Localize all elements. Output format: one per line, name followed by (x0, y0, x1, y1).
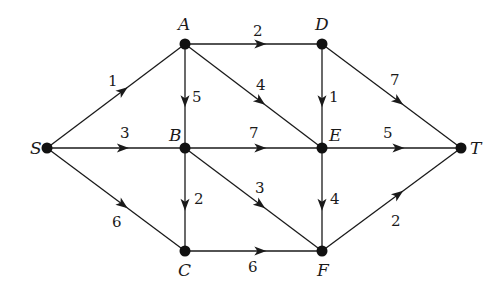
edge-weight-label: 2 (391, 212, 401, 230)
node-c (180, 246, 191, 257)
node-t (456, 143, 467, 154)
arrowhead-icon (391, 191, 403, 202)
arrowhead-icon (253, 94, 265, 105)
node-label-c: C (178, 260, 191, 280)
edge-weight-label: 1 (108, 72, 118, 90)
node-label-b: B (168, 125, 182, 145)
node-label-f: F (316, 260, 330, 280)
edge-weight-label: 7 (249, 124, 259, 142)
edge-s-c (47, 148, 185, 251)
node-f (317, 246, 328, 257)
node-label-e: E (328, 125, 342, 145)
node-e (317, 143, 328, 154)
edge-weight-label: 4 (256, 76, 266, 94)
node-label-d: D (314, 14, 329, 34)
node-label-a: A (176, 14, 190, 34)
edge-weight-label: 7 (390, 71, 400, 89)
node-d (317, 39, 328, 50)
node-a (180, 39, 191, 50)
arrowhead-icon (253, 197, 265, 208)
arrowhead-icon (115, 197, 127, 208)
edge-f-t (322, 148, 461, 251)
node-label-s: S (30, 138, 42, 158)
node-label-t: T (470, 138, 483, 158)
edge-weight-label: 6 (248, 258, 258, 276)
edge-weight-label: 5 (383, 124, 393, 142)
edge-weight-label: 3 (255, 179, 265, 197)
edge-weight-label: 5 (192, 88, 202, 106)
edge-weight-label: 6 (112, 213, 122, 231)
edge-weight-label: 1 (329, 88, 339, 106)
arrowhead-icon (391, 94, 403, 105)
node-s (42, 143, 53, 154)
labels-layer: 136254723175462SABCDEFT (30, 14, 483, 280)
network-diagram: 136254723175462SABCDEFT (0, 0, 498, 288)
edge-weight-label: 3 (120, 124, 130, 142)
edge-b-f (185, 148, 322, 251)
edge-s-a (47, 44, 185, 148)
edge-weight-label: 2 (194, 190, 204, 208)
edge-weight-label: 4 (330, 190, 340, 208)
edge-weight-label: 2 (253, 22, 263, 40)
